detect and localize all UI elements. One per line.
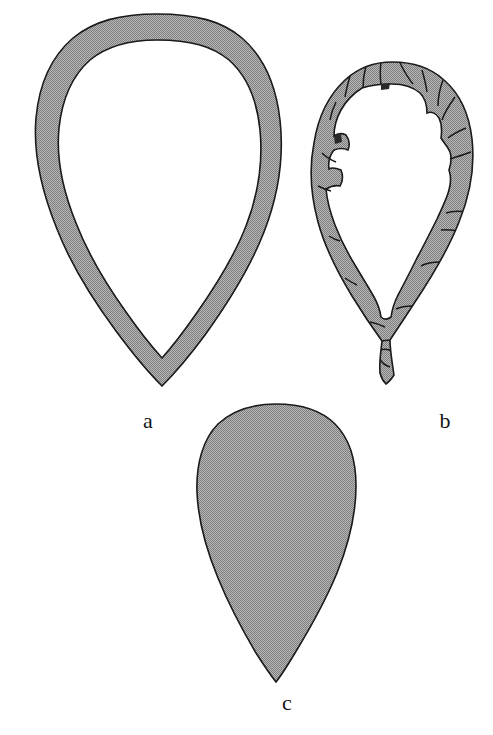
panel-label-b: b [425,410,465,432]
panel-label-a: a [128,410,168,432]
shape-c-teardrop-solid [197,404,356,682]
figure-illustration [0,0,493,735]
shape-a-inner-outline [58,40,261,358]
figure-panel: a b c [0,0,493,735]
shape-b-segmented-ring [311,62,473,384]
panel-label-c: c [267,692,307,714]
shape-b-notch-top [381,83,390,90]
shape-c-fill [197,404,356,682]
shape-a-teardrop-ring [35,14,281,386]
shape-a-fill [35,14,281,386]
